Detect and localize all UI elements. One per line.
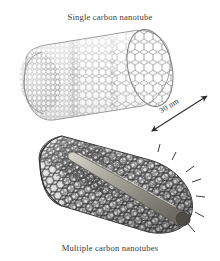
carbon-nanotube-figure: Single carbon nanotube: [0, 0, 220, 261]
nanotube-illustration: [0, 0, 220, 261]
multiple-nanotubes-caption: Multiple carbon nanotubes: [0, 243, 220, 254]
multi-walled-nanotube: [0, 120, 220, 250]
